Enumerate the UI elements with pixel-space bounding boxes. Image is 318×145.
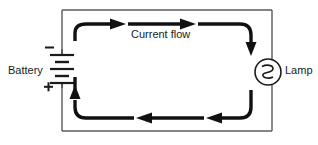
lamp-symbol <box>255 59 281 85</box>
flow-segment-top-left-elbow <box>75 24 110 41</box>
flow-arrowhead-bottom-2 <box>136 113 152 124</box>
lamp-label: Lamp <box>285 64 313 76</box>
flow-arrowhead-right-down <box>246 42 257 56</box>
flow-arrowhead-top-1 <box>110 19 126 30</box>
flow-arrowhead-left-up <box>70 85 81 99</box>
lamp-filament <box>262 65 273 78</box>
battery-negative-sign <box>45 47 54 49</box>
flow-segment-top-right-elbow <box>198 24 251 42</box>
flow-arrowhead-bottom-1 <box>206 113 222 124</box>
circuit-diagram: Battery Lamp Current flow <box>0 0 318 145</box>
current-flow-label: Current flow <box>131 28 190 40</box>
circuit-schematic-canvas <box>0 0 318 145</box>
flow-segment-bottom-left-elbow <box>75 100 134 118</box>
flow-segment-bottom-right-elbow <box>222 90 251 118</box>
battery-symbol <box>44 47 74 92</box>
battery-label: Battery <box>8 64 43 76</box>
